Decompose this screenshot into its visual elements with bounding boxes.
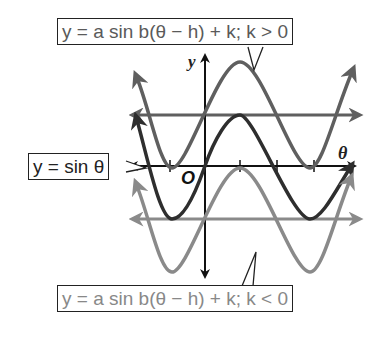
upper-equation-label: y = a sin b(θ − h) + k; k > 0 [57, 18, 293, 45]
middle-callout-pointer [126, 161, 146, 172]
parent-equation-label: y = sin θ [28, 153, 109, 180]
theta-axis-label: θ [338, 143, 347, 164]
lower-equation-label: y = a sin b(θ − h) + k; k < 0 [57, 285, 293, 312]
origin-label: O [181, 168, 195, 189]
y-axis-label: y [188, 52, 196, 72]
lower-callout-pointer [242, 252, 256, 286]
